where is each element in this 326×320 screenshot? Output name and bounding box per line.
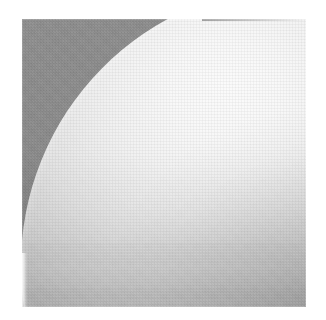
scan-edge-bleed <box>22 253 27 307</box>
image-canvas <box>0 0 326 320</box>
plate-corner-shadow <box>22 19 306 307</box>
scan-trim-artifact <box>202 19 306 21</box>
photograph-frame <box>22 19 306 307</box>
